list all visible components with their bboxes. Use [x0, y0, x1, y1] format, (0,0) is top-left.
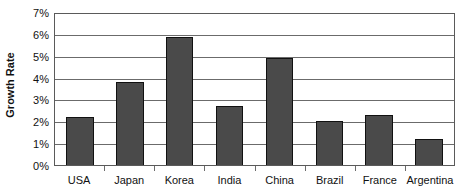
y-axis-tick-label: 6% [33, 29, 49, 41]
bar-china[interactable] [266, 58, 293, 165]
x-axis-tick [104, 166, 105, 171]
plot-area [54, 13, 455, 166]
x-axis-label-korea: Korea [154, 172, 204, 193]
bar-slot [404, 14, 454, 165]
x-axis-label-china: China [255, 172, 305, 193]
x-axis-tick [305, 166, 306, 171]
bar-korea[interactable] [166, 37, 193, 165]
y-axis-tick-label: 7% [33, 7, 49, 19]
y-axis-tick-label: 2% [33, 116, 49, 128]
bars-container [55, 14, 454, 165]
bar-argentina[interactable] [415, 139, 442, 165]
x-axis-label-usa: USA [54, 172, 104, 193]
y-axis-tick-label: 5% [33, 51, 49, 63]
bar-slot [304, 14, 354, 165]
bar-usa[interactable] [66, 117, 93, 165]
y-axis-tick-label: 1% [33, 138, 49, 150]
y-axis-tick-labels: 0%1%2%3%4%5%6%7% [18, 0, 52, 175]
x-axis-label-japan: Japan [104, 172, 154, 193]
bar-slot [155, 14, 205, 165]
growth-rate-bar-chart: Growth Rate 0%1%2%3%4%5%6%7% USAJapanKor… [0, 0, 469, 193]
x-axis-tick [255, 166, 256, 171]
bar-slot [55, 14, 105, 165]
bar-india[interactable] [216, 106, 243, 165]
bar-japan[interactable] [116, 82, 143, 165]
y-axis-tick-label: 4% [33, 73, 49, 85]
x-axis-category-labels: USAJapanKoreaIndiaChinaBrazilFranceArgen… [54, 172, 455, 193]
x-axis-tick [154, 166, 155, 171]
y-axis-title-label: Growth Rate [4, 52, 16, 117]
x-axis-tick [204, 166, 205, 171]
x-axis-tick [355, 166, 356, 171]
bar-slot [205, 14, 255, 165]
x-axis-label-india: India [204, 172, 254, 193]
y-axis-tick-label: 3% [33, 94, 49, 106]
x-axis-label-argentina: Argentina [405, 172, 455, 193]
x-axis-label-brazil: Brazil [305, 172, 355, 193]
x-axis-tick [405, 166, 406, 171]
bar-france[interactable] [365, 115, 392, 165]
bar-brazil[interactable] [316, 121, 343, 165]
bar-slot [255, 14, 305, 165]
y-axis-title: Growth Rate [0, 0, 20, 170]
x-axis-label-france: France [355, 172, 405, 193]
bar-slot [354, 14, 404, 165]
bar-slot [105, 14, 155, 165]
y-axis-tick-label: 0% [33, 160, 49, 172]
